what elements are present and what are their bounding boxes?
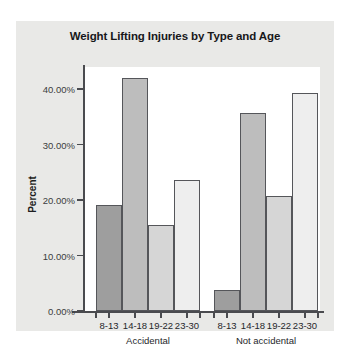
y-tick-mark bbox=[77, 310, 84, 312]
x-tick-mark bbox=[134, 312, 136, 318]
y-tick-mark bbox=[77, 88, 84, 90]
bars-layer bbox=[84, 67, 320, 311]
x-tick-label: 8-13 bbox=[99, 320, 118, 331]
bar-not-accidental-14-18 bbox=[240, 113, 266, 311]
x-tick-mark bbox=[199, 312, 201, 318]
y-tick-label: 30.00% bbox=[43, 139, 75, 150]
chart-title: Weight Lifting Injuries by Type and Age bbox=[16, 30, 334, 42]
y-tick-label: 10.00% bbox=[43, 250, 75, 261]
x-tick-mark bbox=[95, 312, 97, 318]
x-tick-mark bbox=[304, 312, 306, 318]
bar-accidental-14-18 bbox=[122, 78, 148, 311]
x-tick-label: 19-22 bbox=[267, 320, 291, 331]
x-tick-label: 23-30 bbox=[175, 320, 199, 331]
x-tick-label: 14-18 bbox=[241, 320, 265, 331]
group-label-not-accidental: Not accidental bbox=[236, 335, 296, 346]
bar-not-accidental-19-22 bbox=[266, 196, 292, 311]
x-tick-label: 8-13 bbox=[217, 320, 236, 331]
x-tick-mark bbox=[213, 312, 215, 318]
x-tick-mark bbox=[252, 312, 254, 318]
x-tick-mark bbox=[108, 312, 110, 318]
x-axis-line bbox=[72, 311, 324, 313]
x-tick-mark bbox=[278, 312, 280, 318]
bar-not-accidental-23-30 bbox=[292, 93, 318, 311]
y-tick-label: 0.00% bbox=[48, 306, 75, 317]
x-tick-label: 19-22 bbox=[149, 320, 173, 331]
y-axis-title: Percent bbox=[27, 155, 38, 235]
bar-accidental-8-13 bbox=[96, 205, 122, 311]
y-tick-mark bbox=[77, 255, 84, 257]
group-label-accidental: Accidental bbox=[126, 335, 170, 346]
x-tick-mark bbox=[226, 312, 228, 318]
y-tick-label: 40.00% bbox=[43, 84, 75, 95]
x-tick-label: 14-18 bbox=[123, 320, 147, 331]
bar-accidental-23-30 bbox=[174, 180, 200, 311]
x-tick-mark bbox=[317, 312, 319, 318]
y-tick-mark bbox=[77, 144, 84, 146]
y-axis-line bbox=[83, 65, 85, 312]
x-tick-mark bbox=[186, 312, 188, 318]
bar-accidental-19-22 bbox=[148, 225, 174, 312]
chart-figure: Weight Lifting Injuries by Type and Age … bbox=[16, 21, 334, 331]
y-tick-label: 20.00% bbox=[43, 195, 75, 206]
y-tick-mark bbox=[77, 199, 84, 201]
x-tick-label: 23-30 bbox=[293, 320, 317, 331]
bar-not-accidental-8-13 bbox=[214, 290, 240, 311]
x-tick-mark bbox=[160, 312, 162, 318]
